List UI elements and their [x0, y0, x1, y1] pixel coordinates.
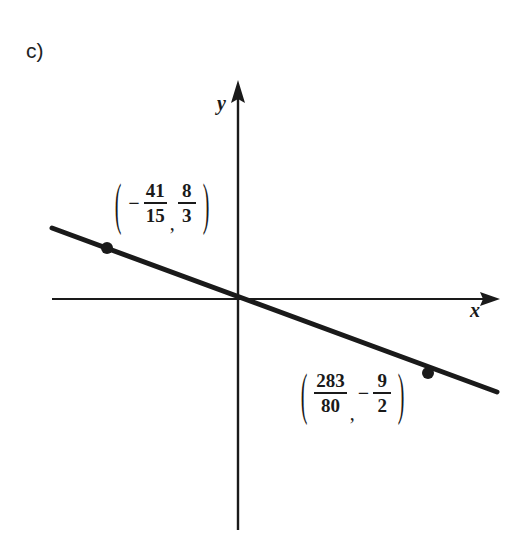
fraction-denominator: 80 — [319, 395, 342, 416]
open-paren: ( — [301, 364, 308, 422]
fraction-bar — [373, 392, 391, 394]
fraction-denominator: 15 — [144, 205, 167, 226]
fraction-bar — [178, 202, 196, 204]
fraction-8-over-3: 8 3 — [177, 180, 197, 227]
plotted-line — [52, 228, 497, 392]
fraction-bar — [144, 202, 167, 204]
fraction-numerator: 283 — [314, 370, 347, 391]
fraction-283-over-80: 283 80 — [313, 370, 348, 417]
coordinate-plane-svg — [0, 0, 525, 540]
graph-figure: c) y x ( − 41 15 , 8 3 ) ( 283 80 , − 9 — [0, 0, 525, 540]
minus-sign: − — [357, 383, 372, 403]
x-axis-label: x — [470, 300, 480, 320]
fraction-41-over-15: 41 15 — [143, 180, 168, 227]
close-paren: ) — [398, 364, 405, 422]
data-point-marker-2 — [422, 367, 434, 379]
coordinate-separator: , — [168, 213, 177, 233]
fraction-denominator: 2 — [375, 395, 389, 416]
fraction-denominator: 3 — [180, 205, 194, 226]
fraction-numerator: 8 — [180, 180, 194, 201]
fraction-bar — [314, 392, 347, 394]
fraction-9-over-2: 9 2 — [372, 370, 392, 417]
data-point-marker-1 — [101, 242, 113, 254]
fraction-numerator: 9 — [375, 370, 389, 391]
coordinate-annotation-1: ( − 41 15 , 8 3 ) — [110, 180, 214, 227]
part-label: c) — [26, 40, 44, 61]
coordinate-separator: , — [348, 403, 357, 423]
y-axis-label: y — [217, 93, 226, 113]
open-paren: ( — [115, 174, 122, 232]
fraction-numerator: 41 — [144, 180, 167, 201]
x-axis-arrowhead — [480, 292, 500, 306]
minus-sign: − — [127, 193, 142, 213]
coordinate-annotation-2: ( 283 80 , − 9 2 ) — [296, 370, 410, 417]
close-paren: ) — [203, 174, 210, 232]
